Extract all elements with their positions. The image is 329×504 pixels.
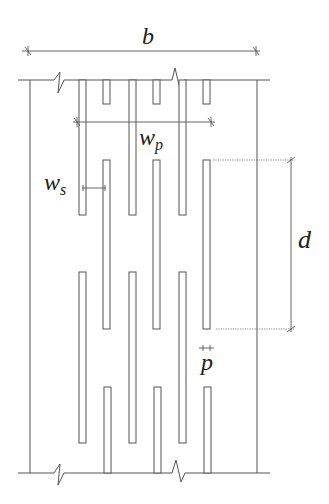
slit-row-b <box>103 160 210 329</box>
dimension-p: p <box>199 345 214 375</box>
slit-row-d <box>104 387 211 473</box>
slit-row-top-stubs <box>103 80 210 104</box>
top-break-line <box>18 68 270 93</box>
dimension-b: b <box>22 23 260 56</box>
dimension-wp: wp <box>73 117 215 154</box>
bottom-break-line <box>18 460 270 485</box>
label-p: p <box>199 349 213 375</box>
slit-row-a <box>79 80 186 215</box>
dimension-ws: ws <box>44 169 106 198</box>
label-b: b <box>142 23 154 49</box>
slotted-plate-diagram: b wp <box>0 0 329 504</box>
label-ws: ws <box>44 169 66 198</box>
label-d: d <box>298 225 312 254</box>
label-wp: wp <box>139 124 163 154</box>
dimension-d: d <box>213 157 312 332</box>
slit-row-c <box>79 272 186 443</box>
